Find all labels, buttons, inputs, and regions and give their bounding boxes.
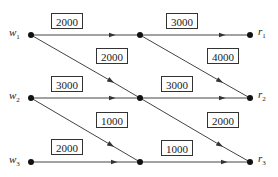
label-subscript: 1: [16, 33, 20, 41]
node-w1: [28, 32, 34, 38]
edge-w2-m3: [31, 98, 140, 162]
node-m1: [137, 32, 143, 38]
node-r3: [247, 159, 253, 165]
capacity-m1-r1: 3000: [166, 13, 198, 29]
label-r3: r3: [258, 152, 266, 167]
label-subscript: 3: [262, 159, 266, 167]
capacity-m3-r3: 1000: [161, 140, 193, 156]
network-diagram: [0, 0, 278, 177]
label-subscript: 3: [16, 160, 20, 168]
capacity-w1-m2: 2000: [96, 48, 128, 64]
label-subscript: 2: [16, 96, 20, 104]
node-r1: [247, 32, 253, 38]
edge-m1-r2: [140, 35, 250, 98]
node-m2: [137, 95, 143, 101]
label-subscript: 2: [262, 95, 266, 103]
label-w3: w3: [9, 153, 20, 168]
node-w3: [28, 159, 34, 165]
capacity-m2-r3: 2000: [207, 112, 239, 128]
edge-w1-m2: [31, 35, 140, 98]
capacity-m2-r2: 3000: [161, 76, 193, 92]
capacity-w1-m1: 2000: [51, 13, 83, 29]
node-m3: [137, 159, 143, 165]
label-r2: r2: [258, 88, 266, 103]
label-subscript: 1: [262, 32, 266, 40]
capacity-w2-m3: 1000: [96, 112, 128, 128]
capacity-w2-m2: 3000: [51, 76, 83, 92]
label-r1: r1: [258, 25, 266, 40]
label-w2: w2: [9, 89, 20, 104]
node-w2: [28, 95, 34, 101]
label-w1: w1: [9, 26, 20, 41]
edge-m2-r3: [140, 98, 250, 162]
node-r2: [247, 95, 253, 101]
capacity-m1-r2: 4000: [207, 48, 239, 64]
capacity-w3-m3: 2000: [51, 139, 83, 155]
